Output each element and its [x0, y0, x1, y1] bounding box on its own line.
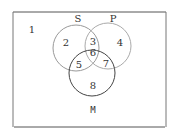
region-8: 8: [90, 80, 96, 91]
set-label-p: P: [110, 13, 117, 24]
set-label-m: M: [90, 105, 96, 115]
region-1: 1: [29, 24, 35, 35]
region-3: 3: [90, 36, 96, 47]
set-label-s: S: [75, 13, 82, 24]
region-6: 6: [90, 47, 96, 58]
region-7: 7: [103, 58, 109, 69]
region-4: 4: [117, 37, 123, 48]
region-2: 2: [63, 37, 69, 48]
venn-diagram: S P M 1 2 3 4 5 6 7 8: [0, 0, 177, 133]
region-5: 5: [76, 59, 82, 70]
